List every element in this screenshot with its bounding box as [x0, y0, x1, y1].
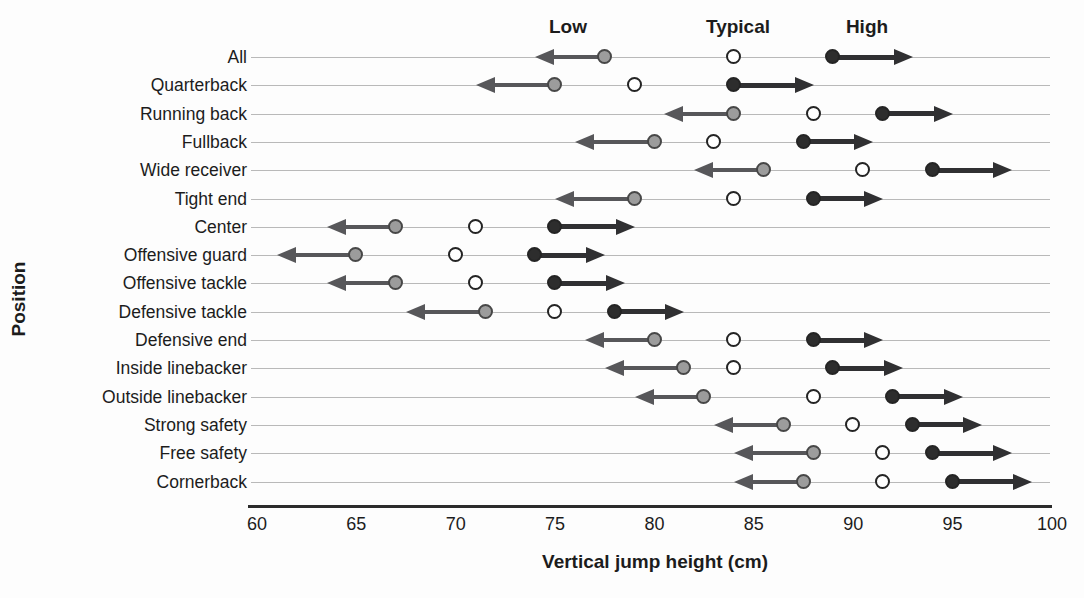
x-axis-line	[248, 505, 1052, 508]
row-label: Quarterback	[0, 75, 247, 95]
typical-dot	[855, 162, 870, 177]
high-dot	[726, 77, 741, 92]
low-range-arrowhead-icon	[327, 219, 346, 235]
typical-dot	[547, 304, 562, 319]
high-dot	[806, 332, 821, 347]
low-dot	[388, 219, 403, 234]
low-dot	[597, 49, 612, 64]
low-dot	[647, 134, 662, 149]
x-axis-tick-label: 65	[332, 514, 380, 535]
typical-dot	[468, 219, 483, 234]
legend-label-low: Low	[518, 16, 618, 38]
low-range-arrowhead-icon	[555, 191, 574, 207]
row-label: Wide receiver	[0, 160, 247, 180]
low-range-arrowhead-icon	[734, 474, 753, 490]
high-dot	[527, 247, 542, 262]
x-axis-tick-label: 85	[730, 514, 778, 535]
high-dot	[905, 417, 920, 432]
low-dot	[547, 77, 562, 92]
low-dot	[756, 162, 771, 177]
x-axis-tick-label: 95	[929, 514, 977, 535]
row-label: Inside linebacker	[0, 358, 247, 378]
high-dot	[547, 275, 562, 290]
typical-dot	[726, 191, 741, 206]
low-dot	[676, 360, 691, 375]
high-dot	[925, 162, 940, 177]
row-label: Fullback	[0, 132, 247, 152]
row-label: Strong safety	[0, 415, 247, 435]
low-dot	[796, 474, 811, 489]
row-label: Defensive tackle	[0, 302, 247, 322]
row-label: Defensive end	[0, 330, 247, 350]
high-range-arrowhead-icon	[1013, 474, 1032, 490]
high-range-arrowhead-icon	[616, 219, 635, 235]
row-label: Running back	[0, 104, 247, 124]
high-range-arrowhead-icon	[993, 445, 1012, 461]
row-label: Offensive tackle	[0, 273, 247, 293]
high-dot	[945, 474, 960, 489]
low-range-arrowhead-icon	[635, 389, 654, 405]
high-dot	[925, 445, 940, 460]
low-range-arrowhead-icon	[575, 134, 594, 150]
low-dot	[348, 247, 363, 262]
low-dot	[627, 191, 642, 206]
typical-dot	[468, 275, 483, 290]
low-range-arrowhead-icon	[734, 445, 753, 461]
row-label: Tight end	[0, 189, 247, 209]
legend-label-typical: Typical	[688, 16, 788, 38]
row-guide-line	[251, 482, 1050, 483]
typical-dot	[806, 106, 821, 121]
low-dot	[696, 389, 711, 404]
high-range-arrowhead-icon	[665, 304, 684, 320]
low-range-arrowhead-icon	[714, 417, 733, 433]
typical-dot	[875, 474, 890, 489]
legend-label-high: High	[817, 16, 917, 38]
row-label: All	[0, 47, 247, 67]
row-label: Free safety	[0, 443, 247, 463]
row-label: Outside linebacker	[0, 387, 247, 407]
row-label: Offensive guard	[0, 245, 247, 265]
low-dot	[726, 106, 741, 121]
row-guide-line	[251, 255, 1050, 256]
row-label: Center	[0, 217, 247, 237]
x-axis-tick-label: 70	[432, 514, 480, 535]
low-range-arrowhead-icon	[664, 106, 683, 122]
high-dot	[806, 191, 821, 206]
typical-dot	[726, 360, 741, 375]
high-dot	[547, 219, 562, 234]
typical-dot	[845, 417, 860, 432]
typical-dot	[627, 77, 642, 92]
high-range-arrowhead-icon	[606, 275, 625, 291]
high-range-arrowhead-icon	[795, 77, 814, 93]
low-range-arrowhead-icon	[476, 77, 495, 93]
x-axis-tick-label: 100	[1028, 514, 1076, 535]
low-dot	[388, 275, 403, 290]
low-dot	[806, 445, 821, 460]
low-dot	[776, 417, 791, 432]
high-dot	[607, 304, 622, 319]
high-range-arrowhead-icon	[993, 162, 1012, 178]
high-dot	[875, 106, 890, 121]
low-dot	[478, 304, 493, 319]
row-label: Cornerback	[0, 472, 247, 492]
typical-dot	[875, 445, 890, 460]
row-guide-line	[251, 85, 1050, 86]
x-axis-title: Vertical jump height (cm)	[454, 551, 856, 573]
low-range-arrowhead-icon	[535, 49, 554, 65]
low-range-arrowhead-icon	[277, 247, 296, 263]
high-range-arrowhead-icon	[963, 417, 982, 433]
high-dot	[825, 49, 840, 64]
high-range-arrowhead-icon	[864, 191, 883, 207]
typical-dot	[726, 49, 741, 64]
low-dot	[647, 332, 662, 347]
chart-canvas: Position Low Typical High AllQuarterback…	[0, 0, 1084, 598]
high-dot	[796, 134, 811, 149]
x-axis-tick-label: 60	[233, 514, 281, 535]
typical-dot	[726, 332, 741, 347]
row-guide-line	[251, 57, 1050, 58]
low-range-arrowhead-icon	[605, 360, 624, 376]
low-range-arrowhead-icon	[406, 304, 425, 320]
high-range-arrowhead-icon	[894, 49, 913, 65]
high-range-arrowhead-icon	[854, 134, 873, 150]
high-range-arrowhead-icon	[864, 332, 883, 348]
